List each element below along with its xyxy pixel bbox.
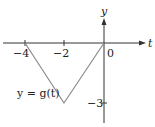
curve-label: y = g(t) — [16, 87, 59, 100]
t-axis-label: t — [148, 37, 153, 50]
tick-label-neg4: −4 — [13, 47, 29, 60]
y-axis-label: y — [100, 5, 108, 18]
graph: t y −4 −2 0 −3 y = g(t) — [0, 0, 155, 127]
y-axis-arrow-icon — [102, 18, 107, 25]
tick-label-neg2: −2 — [53, 47, 69, 60]
t-axis-arrow-icon — [139, 41, 146, 46]
tick-label-0: 0 — [107, 47, 114, 60]
tick-label-neg3: −3 — [87, 97, 103, 110]
